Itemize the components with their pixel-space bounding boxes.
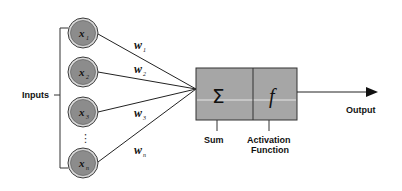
output-label: Output	[346, 105, 376, 115]
input-symbol: x	[78, 157, 85, 169]
input-subscript: n	[86, 165, 89, 171]
svg-text:3: 3	[142, 115, 146, 121]
sum-symbol: Σ	[212, 84, 225, 108]
output-arrow	[297, 87, 378, 97]
input-symbol: x	[78, 66, 85, 78]
input-node-x1: x 1	[68, 18, 98, 48]
inputs-label: Inputs	[22, 90, 49, 100]
svg-text:n: n	[143, 152, 146, 158]
sum-label: Sum	[204, 135, 224, 145]
weight-label-wn: w n	[134, 143, 146, 158]
activation-label-line1: Activation	[247, 135, 291, 145]
neuron-diagram: Inputs x 1 x 2 x 3 ⋮ x n w 1 w	[0, 0, 402, 191]
input-symbol: x	[78, 27, 85, 39]
svg-text:w: w	[134, 143, 143, 157]
weight-label-w3: w 3	[134, 106, 146, 121]
svg-text:2: 2	[143, 71, 146, 77]
ellipsis: ⋮	[80, 132, 91, 145]
input-subscript: 3	[85, 114, 89, 120]
inputs-bracket	[54, 28, 68, 168]
input-subscript: 1	[86, 35, 89, 41]
svg-text:1: 1	[143, 47, 146, 53]
input-node-xn: x n	[68, 148, 98, 178]
input-node-x2: x 2	[68, 57, 98, 87]
input-symbol: x	[78, 106, 85, 118]
activation-label-line2: Function	[251, 145, 289, 155]
weight-label-w1: w 1	[134, 38, 146, 53]
svg-text:w: w	[134, 38, 143, 52]
weight-label-w2: w 2	[134, 62, 146, 77]
svg-text:w: w	[134, 106, 143, 120]
input-node-x3: x 3	[68, 97, 98, 127]
svg-text:w: w	[134, 62, 143, 76]
weight-connections	[98, 34, 196, 162]
input-subscript: 2	[86, 74, 89, 80]
